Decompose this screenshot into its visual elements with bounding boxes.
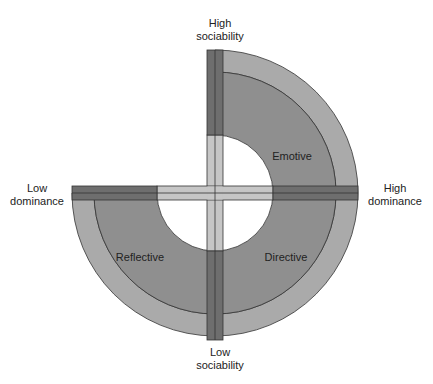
axis-label-bottom: Low sociability [180, 346, 260, 372]
axis-label-top-line2: sociability [180, 30, 260, 43]
axis-bar-right [273, 186, 358, 200]
axis-bar-top [207, 50, 223, 135]
axis-label-left-line1: Low [6, 182, 68, 195]
quadrant-emotive [215, 50, 358, 193]
axis-label-top: High sociability [180, 17, 260, 43]
axis-label-left-line2: dominance [6, 195, 68, 208]
axis-label-right: High dominance [362, 182, 428, 208]
axis-label-right-line1: High [362, 182, 428, 195]
axis-label-top-line1: High [180, 17, 260, 30]
quadrant-reflective [72, 193, 215, 336]
quadrant-label-emotive: Emotive [262, 150, 322, 163]
quadrant-label-reflective: Reflective [100, 251, 180, 264]
axis-bar-bottom [207, 251, 223, 340]
axis-label-right-line2: dominance [362, 195, 428, 208]
axis-label-bottom-line1: Low [180, 346, 260, 359]
axis-label-bottom-line2: sociability [180, 359, 260, 372]
axis-label-left: Low dominance [6, 182, 68, 208]
quadrant-directive [215, 193, 358, 336]
axis-bar-left [72, 186, 157, 200]
axis-cross-inner [157, 135, 273, 251]
quadrant-label-directive: Directive [246, 251, 326, 264]
